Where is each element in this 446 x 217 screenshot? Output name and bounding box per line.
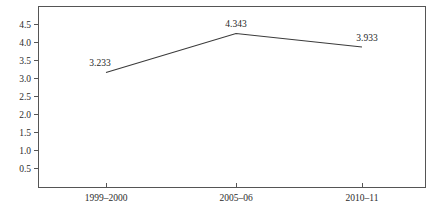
- data-label-point-2: 4.343: [225, 19, 247, 29]
- x-tick-label: 2010–11: [346, 193, 379, 203]
- y-tick-label: 2.0: [19, 110, 31, 120]
- y-tick-label: 3.0: [19, 74, 31, 84]
- chart-canvas: 4.5 4.0 3.5 3.0 2.5 2.0 1.5 1.0 0.5 1999…: [0, 0, 446, 217]
- y-axis-ticks: [34, 25, 39, 169]
- y-tick-label: 4.5: [19, 20, 31, 30]
- x-tick-label: 2005–06: [219, 193, 253, 203]
- x-axis-labels: 1999–2000 2005–06 2010–11: [85, 193, 379, 203]
- line-chart-figure: 4.5 4.0 3.5 3.0 2.5 2.0 1.5 1.0 0.5 1999…: [0, 0, 446, 217]
- x-tick-label: 1999–2000: [85, 193, 128, 203]
- y-axis-labels: 4.5 4.0 3.5 3.0 2.5 2.0 1.5 1.0 0.5: [19, 20, 31, 174]
- data-point-labels: 3.233 4.343 3.933: [89, 19, 378, 68]
- data-label-point-3: 3.933: [356, 33, 378, 43]
- x-axis-ticks: [107, 183, 363, 188]
- y-tick-label: 3.5: [19, 56, 31, 66]
- y-tick-label: 1.0: [19, 146, 31, 156]
- data-series-line: [106, 34, 362, 73]
- y-tick-label: 4.0: [19, 38, 31, 48]
- y-tick-label: 2.5: [19, 92, 31, 102]
- y-tick-label: 1.5: [19, 128, 31, 138]
- data-label-point-1: 3.233: [89, 58, 111, 68]
- y-tick-label: 0.5: [19, 164, 31, 174]
